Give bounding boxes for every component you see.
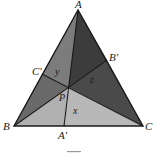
caption-fragment (67, 151, 81, 152)
label-A-prime: A' (57, 129, 68, 141)
label-C: C (145, 120, 153, 132)
cevian-triangle-diagram: A B C A' B' C' P x y z (0, 0, 157, 153)
label-B: B (3, 120, 10, 132)
region-label-x: x (72, 105, 78, 116)
region-label-y: y (54, 66, 60, 77)
label-C-prime: C' (32, 65, 42, 77)
label-B-prime: B' (109, 51, 119, 63)
label-A: A (74, 0, 82, 10)
region-label-z: z (89, 74, 94, 85)
label-P: P (58, 92, 65, 103)
